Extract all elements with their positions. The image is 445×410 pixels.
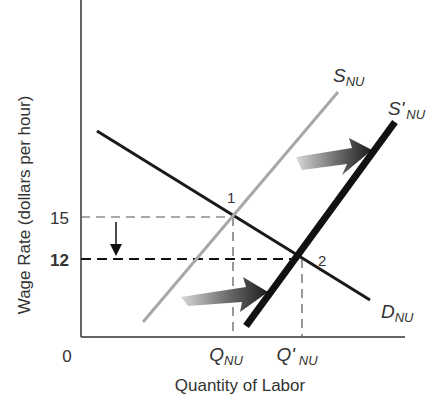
origin-label: 0 [62, 347, 71, 366]
equilibrium-1-label: 1 [227, 189, 235, 206]
wage-down-arrow-icon [110, 222, 122, 256]
x-axis-title: Quantity of Labor [175, 376, 306, 395]
equilibrium-2-label: 2 [318, 252, 326, 269]
demand-label: DNU [381, 301, 414, 325]
supply-label: SNU [333, 65, 365, 89]
supply-curve-shifted [246, 122, 395, 326]
supply-shifted-label: S'NU [388, 98, 426, 122]
y-tick-12: 12 [50, 251, 69, 270]
shift-arrow-lower-icon [181, 277, 268, 312]
x-tick-q: QNU [209, 344, 243, 368]
x-tick-q-prime: Q'NU [276, 344, 318, 368]
supply-curve [143, 92, 338, 322]
y-tick-15: 15 [50, 209, 69, 228]
labor-market-chart: 1 2 SNU S'NU DNU 15 12 0 QNU Q'NU Quanti… [0, 0, 445, 410]
y-axis-title: Wage Rate (dollars per hour) [15, 96, 34, 315]
